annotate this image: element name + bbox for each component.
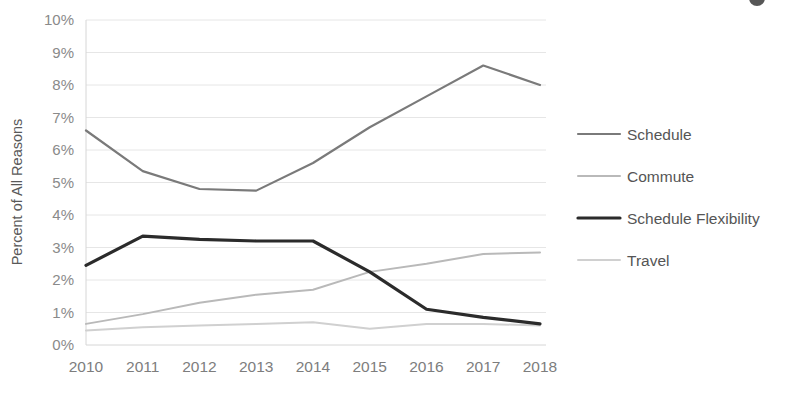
x-tick-label: 2016 xyxy=(409,358,443,375)
y-tick-label: 10% xyxy=(44,11,74,28)
y-tick-label: 9% xyxy=(52,44,74,61)
y-tick-label: 6% xyxy=(52,141,74,158)
legend-label: Travel xyxy=(627,252,670,269)
x-tick-label: 2013 xyxy=(239,358,273,375)
legend-label: Schedule Flexibility xyxy=(627,210,760,227)
line-chart: 10%9%8%7%6%5%4%3%2%1%0% 2010201120122013… xyxy=(0,0,785,393)
data-series-group xyxy=(86,66,540,331)
y-axis-tick-labels: 10%9%8%7%6%5%4%3%2%1%0% xyxy=(44,11,74,353)
y-tick-label: 0% xyxy=(52,336,74,353)
x-tick-label: 2018 xyxy=(523,358,557,375)
x-tick-label: 2014 xyxy=(296,358,331,375)
x-tick-label: 2015 xyxy=(353,358,387,375)
chart-canvas: 10%9%8%7%6%5%4%3%2%1%0% 2010201120122013… xyxy=(0,0,785,393)
y-tick-label: 4% xyxy=(52,206,74,223)
legend-label: Commute xyxy=(627,168,694,185)
y-tick-label: 5% xyxy=(52,174,74,191)
y-tick-label: 7% xyxy=(52,109,74,126)
x-tick-label: 2010 xyxy=(69,358,104,375)
y-tick-label: 3% xyxy=(52,239,74,256)
y-tick-label: 1% xyxy=(52,304,74,321)
series-line-commute xyxy=(86,252,540,324)
x-axis-tick-labels: 201020112012201320142015201620172018 xyxy=(69,358,557,375)
y-tick-label: 8% xyxy=(52,76,74,93)
chart-legend: ScheduleCommuteSchedule FlexibilityTrave… xyxy=(578,126,760,269)
legend-label: Schedule xyxy=(627,126,692,143)
y-axis-title: Percent of All Reasons xyxy=(9,119,25,266)
series-line-travel xyxy=(86,322,540,330)
series-line-schedule xyxy=(86,66,540,191)
x-tick-label: 2017 xyxy=(466,358,500,375)
x-tick-label: 2011 xyxy=(126,358,159,375)
x-tick-label: 2012 xyxy=(182,358,216,375)
y-tick-label: 2% xyxy=(52,271,74,288)
